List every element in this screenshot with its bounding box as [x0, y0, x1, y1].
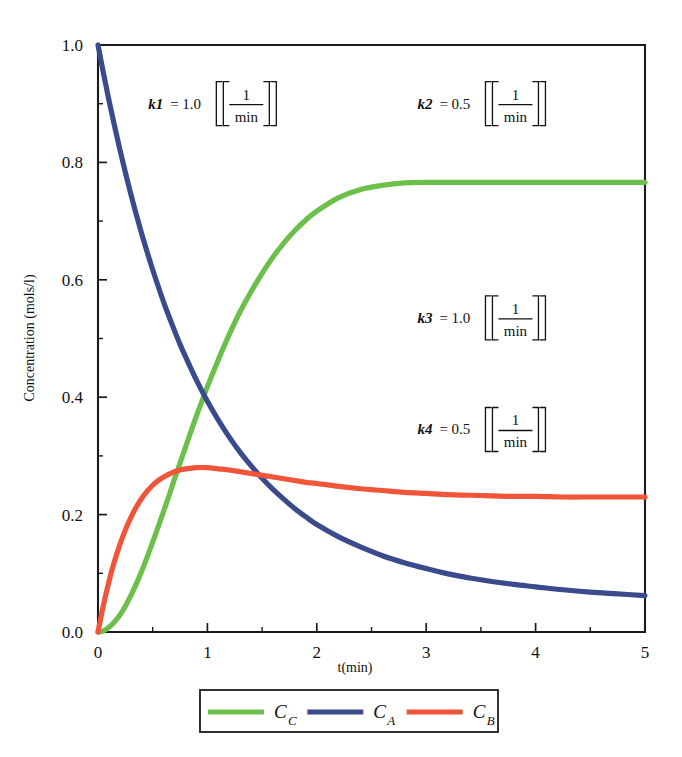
- x-tick-label: 0: [94, 643, 103, 662]
- legend-label-base: C: [373, 701, 386, 722]
- x-tick-label: 2: [313, 643, 322, 662]
- rate-constant-annotations: k1=1.01mink2=0.51mink3=1.01mink4=0.51min: [148, 82, 545, 452]
- bracket-right-0: [539, 82, 545, 126]
- annotation-equals: =: [439, 421, 447, 437]
- annotation-k3: k3=1.01min: [417, 296, 545, 340]
- y-tick-label: 1.0: [62, 36, 83, 55]
- legend-label-subscript: A: [386, 713, 395, 728]
- bracket-right-0: [539, 407, 545, 451]
- unit-denominator: min: [504, 323, 528, 339]
- legend-item-C_B[interactable]: CB: [407, 701, 495, 728]
- concentration-vs-time-plot: 012345 0.00.20.40.60.81.0 k1=1.01mink2=0…: [0, 0, 682, 757]
- annotation-equals: =: [170, 96, 178, 112]
- bracket-left-0: [485, 407, 491, 451]
- x-tick-label: 4: [531, 643, 540, 662]
- legend-label-base: C: [473, 701, 486, 722]
- annotation-symbol: k2: [417, 96, 433, 112]
- x-tick-label: 3: [422, 643, 431, 662]
- bracket-left-0: [485, 82, 491, 126]
- unit-numerator: 1: [512, 412, 520, 428]
- legend-item-C_C[interactable]: CC: [208, 701, 297, 728]
- y-tick-label: 0.2: [62, 506, 83, 525]
- y-axis-tick-labels: 0.00.20.40.60.81.0: [62, 36, 84, 642]
- unit-numerator: 1: [512, 87, 520, 103]
- annotation-value: 1.0: [182, 96, 201, 112]
- bracket-left-1: [492, 82, 498, 126]
- bracket-right-1: [532, 296, 538, 340]
- bracket-right-1: [532, 407, 538, 451]
- bracket-left-1: [492, 296, 498, 340]
- annotation-symbol: k3: [417, 310, 433, 326]
- annotation-equals: =: [439, 96, 447, 112]
- bracket-right-1: [532, 82, 538, 126]
- unit-numerator: 1: [512, 301, 520, 317]
- curve-C_A: [98, 45, 645, 596]
- bracket-right-1: [263, 82, 269, 126]
- unit-denominator: min: [504, 109, 528, 125]
- legend-label-subscript: C: [288, 713, 297, 728]
- chart-legend: CCCACB: [200, 690, 498, 732]
- bracket-right-0: [270, 82, 276, 126]
- annotation-value: 0.5: [451, 421, 470, 437]
- data-curves: [98, 45, 645, 632]
- legend-item-C_A[interactable]: CA: [307, 701, 395, 728]
- bracket-left-0: [216, 82, 222, 126]
- y-tick-label: 0.0: [62, 623, 83, 642]
- annotation-k4: k4=0.51min: [417, 407, 545, 451]
- x-axis-title: t(min): [338, 660, 373, 676]
- y-axis-title: Concentration (mols/l): [22, 274, 38, 401]
- annotation-symbol: k1: [148, 96, 163, 112]
- bracket-right-0: [539, 296, 545, 340]
- annotation-value: 1.0: [451, 310, 470, 326]
- unit-numerator: 1: [243, 87, 251, 103]
- annotation-k1: k1=1.01min: [148, 82, 276, 126]
- chart-figure: 012345 0.00.20.40.60.81.0 k1=1.01mink2=0…: [0, 0, 682, 757]
- bracket-left-1: [223, 82, 229, 126]
- annotation-k2: k2=0.51min: [417, 82, 545, 126]
- y-tick-label: 0.4: [62, 388, 84, 407]
- annotation-equals: =: [439, 310, 447, 326]
- annotation-value: 0.5: [451, 96, 470, 112]
- x-tick-label: 1: [203, 643, 212, 662]
- unit-denominator: min: [504, 434, 528, 450]
- y-tick-label: 0.6: [62, 271, 83, 290]
- annotation-symbol: k4: [417, 421, 433, 437]
- y-tick-label: 0.8: [62, 153, 83, 172]
- legend-label-subscript: B: [487, 713, 495, 728]
- curve-C_C: [98, 182, 645, 632]
- x-tick-label: 5: [641, 643, 650, 662]
- legend-label-base: C: [274, 701, 287, 722]
- bracket-left-1: [492, 407, 498, 451]
- bracket-left-0: [485, 296, 491, 340]
- unit-denominator: min: [235, 109, 259, 125]
